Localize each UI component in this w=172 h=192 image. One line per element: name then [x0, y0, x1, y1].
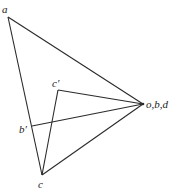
label-b-prime: b′	[19, 123, 28, 135]
segment-c-obd	[42, 104, 143, 175]
segment-a-c	[8, 17, 42, 175]
label-obd: o,b,d	[146, 98, 169, 110]
labels: a o,b,d c c′ b′	[2, 3, 169, 190]
label-a: a	[2, 3, 8, 15]
segments	[8, 17, 143, 175]
segment-bprime-obd	[32, 104, 143, 126]
segment-cprime-c	[42, 90, 58, 175]
segment-cprime-obd	[58, 90, 143, 104]
point-obd-dot	[142, 103, 145, 106]
segment-a-obd	[8, 17, 143, 104]
label-c-prime: c′	[52, 77, 60, 89]
label-c: c	[38, 178, 43, 190]
vector-diagram: a o,b,d c c′ b′	[0, 0, 172, 192]
